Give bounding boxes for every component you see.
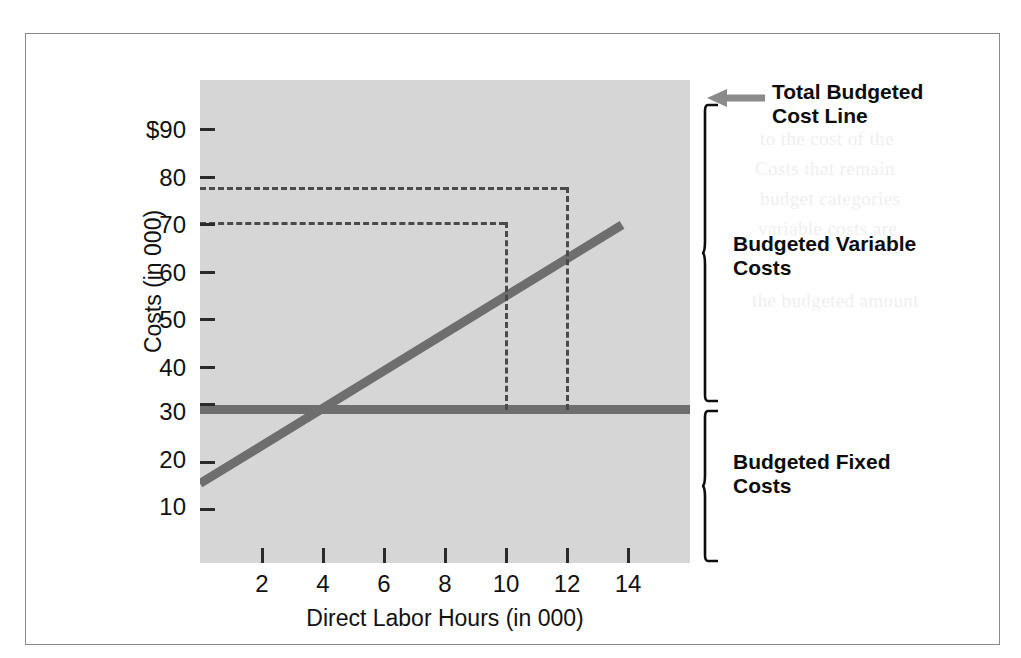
annotation-total-budgeted-cost-line: Total Budgeted Cost Line: [772, 80, 923, 127]
x-tick-2: [261, 548, 264, 563]
x-tick-label-10: 10: [476, 570, 536, 598]
y-tick-label-10: 10: [108, 493, 186, 521]
y-tick-30: [200, 403, 215, 406]
y-tick-50: [200, 318, 215, 321]
y-tick-label-80: 80: [108, 164, 186, 192]
annotation-budgeted-fixed-costs: Budgeted Fixed Costs: [733, 450, 891, 497]
annotation-budgeted-variable-costs: Budgeted Variable Costs: [733, 232, 916, 279]
x-tick-10: [505, 548, 508, 563]
x-tick-label-8: 8: [415, 570, 475, 598]
total-budgeted-cost-line: [200, 221, 624, 487]
y-tick-70: [200, 223, 215, 226]
guide-line-vertical-12: [566, 187, 569, 410]
x-tick-label-2: 2: [232, 570, 292, 598]
guide-line-horizontal-78: [200, 187, 566, 190]
y-tick-90: [200, 128, 215, 131]
budgeted-fixed-cost-line: [200, 405, 690, 414]
y-tick-label-40: 40: [108, 354, 186, 382]
chart-figure: to the cost of the Costs that remain bud…: [0, 0, 1021, 658]
x-tick-label-6: 6: [354, 570, 414, 598]
y-tick-80: [200, 176, 215, 179]
x-tick-12: [566, 548, 569, 563]
x-tick-14: [627, 548, 630, 563]
x-tick-label-12: 12: [537, 570, 597, 598]
y-axis-title: Costs (in 000): [140, 210, 167, 353]
x-tick-6: [383, 548, 386, 563]
y-tick-10: [200, 508, 215, 511]
guide-line-horizontal-70: [200, 222, 505, 225]
x-tick-label-4: 4: [293, 570, 353, 598]
x-tick-label-14: 14: [598, 570, 658, 598]
brace-fixed-costs: [702, 409, 724, 563]
x-axis-title: Direct Labor Hours (in 000): [200, 605, 690, 632]
y-tick-40: [200, 366, 215, 369]
x-tick-8: [444, 548, 447, 563]
x-tick-4: [322, 548, 325, 563]
y-tick-label-20: 20: [108, 446, 186, 474]
brace-variable-costs: [702, 103, 724, 403]
y-tick-60: [200, 271, 215, 274]
guide-line-vertical-10: [505, 222, 508, 410]
y-tick-label-30: 30: [108, 398, 186, 426]
plot-area: [200, 80, 690, 563]
y-tick-20: [200, 461, 215, 464]
y-tick-label-90: $90: [108, 116, 186, 144]
